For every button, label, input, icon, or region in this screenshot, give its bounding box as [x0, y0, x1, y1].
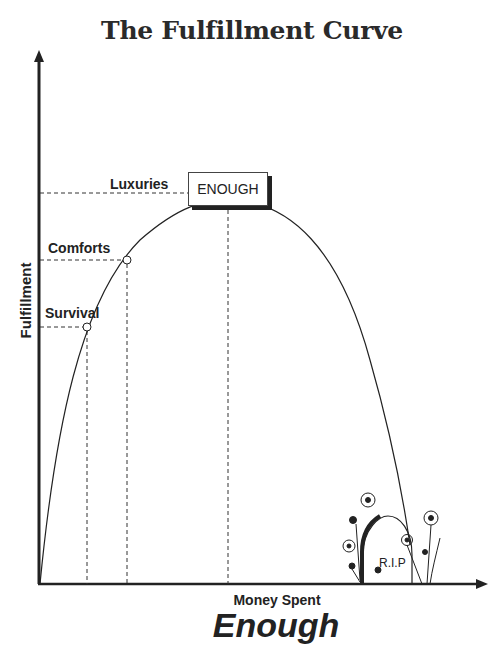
flower-icon: [343, 540, 355, 552]
y-axis-arrow-icon: [34, 50, 44, 62]
flower-icon: [424, 511, 438, 525]
tombstone-icon: [343, 493, 440, 584]
fulfillment-curve-chart: [0, 0, 504, 665]
survival-point: [83, 323, 91, 331]
fulfillment-curve: [40, 200, 410, 584]
luxuries-label: Luxuries: [110, 176, 168, 192]
y-axis-label: Fulfillment: [17, 256, 34, 346]
x-axis-arrow-icon: [476, 579, 488, 589]
flower-icon: [361, 493, 375, 507]
comforts-point: [123, 256, 131, 264]
survival-label: Survival: [45, 305, 99, 321]
comforts-label: Comforts: [48, 240, 110, 256]
rip-label: R.I.P: [379, 556, 406, 570]
subtitle: Enough: [0, 606, 504, 645]
enough-peak-box: ENOUGH: [188, 172, 268, 206]
